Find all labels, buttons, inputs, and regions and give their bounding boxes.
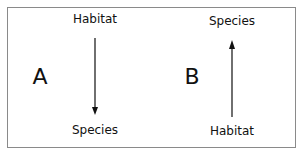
arrow-up-icon — [229, 40, 235, 117]
arrows-layer — [0, 0, 304, 155]
arrow-down-icon — [92, 38, 98, 115]
